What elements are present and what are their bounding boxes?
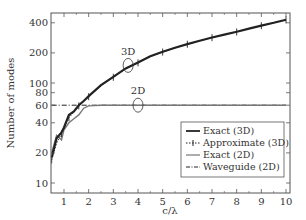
y-tick-label: 200 [29, 47, 48, 58]
x-tick-label: 4 [135, 196, 141, 207]
legend-label: Exact (3D) [203, 125, 254, 136]
y-tick-label: 40 [35, 117, 48, 128]
annotation-2d: 2D [131, 85, 145, 112]
legend-label: Exact (2D) [203, 149, 254, 160]
y-tick-label: 400 [29, 17, 48, 28]
annotation-3d-label: 3D [121, 46, 135, 57]
legend: Exact (3D) Approximate (3D) Exact (2D) W… [181, 122, 289, 177]
y-tick-label: 100 [29, 78, 48, 89]
y-tick-label: 20 [35, 147, 48, 158]
chart-canvas: 12345678910 1020406080100200400 c/λ Numb… [0, 0, 306, 220]
x-tick-label: 1 [61, 196, 67, 207]
x-tick-label: 3 [110, 196, 116, 207]
y-tick-label: 80 [35, 87, 48, 98]
legend-label: Approximate (3D) [202, 137, 289, 148]
x-tick-label: 10 [280, 196, 293, 207]
x-tick-label: 9 [258, 196, 264, 207]
x-axis: 12345678910 [61, 13, 293, 207]
y-tick-label: 60 [35, 100, 48, 111]
x-axis-label: c/λ [162, 205, 178, 216]
y-axis-label: Number of modes [5, 58, 16, 149]
x-tick-label: 6 [184, 196, 190, 207]
legend-label: Waveguide (2D) [203, 161, 280, 172]
x-tick-label: 2 [85, 196, 91, 207]
x-tick-label: 7 [209, 196, 215, 207]
annotation-3d: 3D [121, 46, 135, 72]
y-tick-label: 10 [35, 178, 48, 189]
annotation-2d-label: 2D [131, 85, 145, 96]
x-tick-label: 8 [233, 196, 239, 207]
